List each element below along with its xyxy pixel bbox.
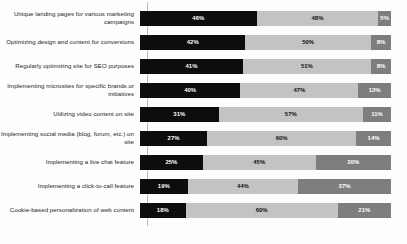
bar-value-label: 41% xyxy=(185,63,197,69)
category-label: Cookie-based personalization of web cont… xyxy=(0,206,140,214)
category-label: Implementing a click-to-call feature xyxy=(0,182,140,190)
bar-segment: 13% xyxy=(358,83,391,98)
stacked-bar: 19%44%37% xyxy=(140,179,391,194)
bar-segment: 45% xyxy=(203,155,316,170)
bar-value-label: 14% xyxy=(368,135,380,141)
bar-value-label: 19% xyxy=(158,183,170,189)
bar-value-label: 13% xyxy=(369,87,381,93)
bar-value-label: 40% xyxy=(184,87,196,93)
bar-value-label: 51% xyxy=(301,63,313,69)
bar-segment: 60% xyxy=(207,131,356,146)
category-label: Implementing a live chat feature xyxy=(0,158,140,166)
stacked-bar: 27%60%14% xyxy=(140,131,391,146)
bar-segment: 50% xyxy=(245,35,371,50)
category-label: Implementing social media (blog, forum, … xyxy=(0,130,140,145)
bar-segment: 27% xyxy=(140,131,207,146)
bar-segment: 57% xyxy=(219,107,364,122)
category-label: Implementing microsites for specific bra… xyxy=(0,82,140,97)
bar-value-label: 30% xyxy=(347,159,359,165)
bar-value-label: 21% xyxy=(358,207,370,213)
bar-segment: 44% xyxy=(188,179,298,194)
bar-segment: 25% xyxy=(140,155,203,170)
chart-row: Regularly optimizing site for SEO purpos… xyxy=(0,54,407,78)
chart-row: Implementing a click-to-call feature19%4… xyxy=(0,174,407,198)
bar-value-label: 27% xyxy=(168,135,180,141)
chart-row: Implementing social media (blog, forum, … xyxy=(0,126,407,150)
bar-segment: 19% xyxy=(140,179,188,194)
bar-segment: 14% xyxy=(356,131,391,146)
bar-value-label: 57% xyxy=(285,111,297,117)
bar-value-label: 8% xyxy=(377,39,386,45)
category-label: Optimizing design and content for conver… xyxy=(0,38,140,46)
bar-segment: 21% xyxy=(338,203,391,218)
stacked-bar: 31%57%11% xyxy=(140,107,391,122)
bar-value-label: 48% xyxy=(311,15,323,21)
bar-value-label: 42% xyxy=(187,39,199,45)
bar-value-label: 60% xyxy=(276,135,288,141)
bar-value-label: 31% xyxy=(173,111,185,117)
bar-value-label: 5% xyxy=(380,15,389,21)
bar-segment: 48% xyxy=(257,11,379,26)
bar-segment: 40% xyxy=(140,83,240,98)
category-label: Regularly optimizing site for SEO purpos… xyxy=(0,62,140,70)
bar-segment: 47% xyxy=(240,83,358,98)
bar-segment: 42% xyxy=(140,35,245,50)
bar-segment: 41% xyxy=(140,59,243,74)
bar-segment: 11% xyxy=(363,107,391,122)
chart-row: Optimizing design and content for conver… xyxy=(0,30,407,54)
bar-segment: 5% xyxy=(378,11,391,26)
chart-row: Cookie-based personalization of web cont… xyxy=(0,198,407,222)
chart-rows: Unique landing pages for various marketi… xyxy=(0,6,407,222)
bar-segment: 37% xyxy=(298,179,391,194)
bar-segment: 51% xyxy=(243,59,371,74)
bar-segment: 46% xyxy=(140,11,257,26)
stacked-bar: 46%48%5% xyxy=(140,11,391,26)
bar-value-label: 18% xyxy=(157,207,169,213)
bar-segment: 60% xyxy=(186,203,338,218)
bar-value-label: 37% xyxy=(339,183,351,189)
bar-value-label: 45% xyxy=(253,159,265,165)
stacked-bar: 42%50%8% xyxy=(140,35,391,50)
stacked-bar: 25%45%30% xyxy=(140,155,391,170)
stacked-bar-chart: Unique landing pages for various marketi… xyxy=(0,0,407,244)
bar-value-label: 11% xyxy=(371,111,383,117)
chart-row: Implementing microsites for specific bra… xyxy=(0,78,407,102)
stacked-bar: 40%47%13% xyxy=(140,83,391,98)
bar-segment: 8% xyxy=(371,35,391,50)
stacked-bar: 41%51%8% xyxy=(140,59,391,74)
chart-row: Implementing a live chat feature25%45%30… xyxy=(0,150,407,174)
bar-value-label: 50% xyxy=(302,39,314,45)
stacked-bar: 18%60%21% xyxy=(140,203,391,218)
bar-segment: 18% xyxy=(140,203,186,218)
bar-value-label: 44% xyxy=(237,183,249,189)
category-label: Utilizing video content on site xyxy=(0,110,140,118)
bar-segment: 30% xyxy=(316,155,391,170)
bar-segment: 31% xyxy=(140,107,219,122)
category-label: Unique landing pages for various marketi… xyxy=(0,10,140,25)
bar-value-label: 25% xyxy=(165,159,177,165)
bar-segment: 8% xyxy=(371,59,391,74)
bar-value-label: 8% xyxy=(377,63,386,69)
chart-row: Utilizing video content on site31%57%11% xyxy=(0,102,407,126)
bar-value-label: 60% xyxy=(256,207,268,213)
bar-value-label: 47% xyxy=(293,87,305,93)
bar-value-label: 46% xyxy=(192,15,204,21)
chart-row: Unique landing pages for various marketi… xyxy=(0,6,407,30)
